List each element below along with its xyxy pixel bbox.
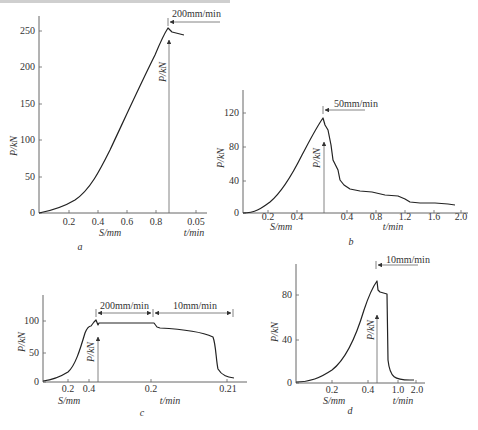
y-ticks: 0 40 80 bbox=[282, 289, 299, 388]
y-axis-label: P/kN bbox=[16, 331, 27, 353]
panel-c: 0 50 100 P/kN 0.2 0.4 0.2 0.21 S/mm t/mi… bbox=[16, 295, 247, 418]
svg-text:0.2: 0.2 bbox=[145, 383, 158, 394]
svg-text:0.4: 0.4 bbox=[291, 211, 304, 222]
cropped-text-strip bbox=[0, 0, 230, 3]
x-axis-label-s: S/mm bbox=[270, 221, 292, 232]
load-curve bbox=[296, 281, 414, 382]
svg-text:0.2: 0.2 bbox=[63, 216, 76, 227]
panel-label: b bbox=[349, 236, 354, 247]
y-axis-label: P/kN bbox=[8, 135, 19, 157]
x-axis-label-t: t/min bbox=[383, 221, 404, 232]
svg-text:50: 50 bbox=[29, 347, 39, 358]
svg-text:0.4: 0.4 bbox=[83, 383, 96, 394]
x-axis-label-s: S/mm bbox=[58, 395, 80, 406]
panel-a: 0 50 100 150 200 250 P/kN 0.2 0.4 0.6 0.… bbox=[8, 8, 221, 252]
figure: 0 50 100 150 200 250 P/kN 0.2 0.4 0.6 0.… bbox=[0, 0, 478, 430]
x-axis-label-s: S/mm bbox=[323, 395, 345, 406]
svg-text:40: 40 bbox=[282, 334, 292, 345]
svg-text:0.2: 0.2 bbox=[326, 384, 339, 395]
svg-text:0.4: 0.4 bbox=[341, 211, 354, 222]
svg-text:0.4: 0.4 bbox=[92, 216, 105, 227]
inner-y-label: P/kN bbox=[157, 61, 168, 83]
svg-text:0.2: 0.2 bbox=[62, 383, 75, 394]
svg-text:0.21: 0.21 bbox=[219, 383, 237, 394]
inner-y-label: P/kN bbox=[365, 319, 376, 341]
svg-text:0.05: 0.05 bbox=[187, 216, 205, 227]
panel-label: a bbox=[78, 241, 83, 252]
y-tick-label: 100 bbox=[20, 134, 35, 145]
x-ticks: 0.2 0.4 0.2 0.21 bbox=[62, 379, 237, 394]
y-tick-label: 200 bbox=[20, 61, 35, 72]
svg-text:1.6: 1.6 bbox=[428, 211, 441, 222]
svg-text:2.0: 2.0 bbox=[411, 384, 424, 395]
x-ticks: 0.2 0.4 1.0 2.0 bbox=[326, 380, 424, 395]
rate-annotation-1: 200mm/min bbox=[100, 300, 149, 311]
svg-text:40: 40 bbox=[229, 175, 239, 186]
y-tick-label: 50 bbox=[25, 171, 35, 182]
svg-text:0: 0 bbox=[287, 377, 292, 388]
rate-annotation: 200mm/min bbox=[172, 8, 221, 19]
svg-text:0: 0 bbox=[34, 376, 39, 387]
x-axis-label-t: t/min bbox=[160, 395, 181, 406]
svg-text:100: 100 bbox=[24, 315, 39, 326]
x-ticks: 0.2 0.4 0.4 0.8 1.2 1.6 2.0 bbox=[262, 210, 468, 222]
y-axis-label: P/kN bbox=[215, 147, 226, 169]
panel-b: 0 40 80 120 P/kN 0.2 0.4 0.4 0.8 1.2 1.6… bbox=[215, 90, 468, 247]
y-tick-label: 0 bbox=[30, 207, 35, 218]
svg-text:0.4: 0.4 bbox=[362, 384, 375, 395]
svg-text:1.0: 1.0 bbox=[392, 384, 405, 395]
svg-text:0: 0 bbox=[234, 207, 239, 218]
svg-text:0.8: 0.8 bbox=[150, 216, 163, 227]
load-curve bbox=[243, 118, 455, 213]
x-axis-label-t: t/min bbox=[393, 395, 414, 406]
y-tick-label: 250 bbox=[20, 25, 35, 36]
panel-label: c bbox=[140, 407, 145, 418]
rate-annotation: 10mm/min bbox=[386, 254, 430, 265]
svg-text:2.0: 2.0 bbox=[455, 211, 468, 222]
svg-text:120: 120 bbox=[224, 107, 239, 118]
rate-annotation: 50mm/min bbox=[334, 98, 378, 109]
rate-annotation-2: 10mm/min bbox=[173, 300, 217, 311]
svg-text:0.6: 0.6 bbox=[121, 216, 134, 227]
svg-text:80: 80 bbox=[282, 289, 292, 300]
svg-text:0.8: 0.8 bbox=[370, 211, 383, 222]
y-axis-label: P/kN bbox=[269, 321, 280, 343]
svg-text:80: 80 bbox=[229, 141, 239, 152]
inner-y-label: P/kN bbox=[85, 341, 96, 363]
panel-d: 0 40 80 P/kN 0.2 0.4 1.0 2.0 S/mm t/min … bbox=[269, 254, 430, 416]
load-curve bbox=[39, 28, 184, 213]
x-axis-label-s: S/mm bbox=[99, 227, 121, 238]
inner-y-label: P/kN bbox=[311, 147, 322, 169]
y-tick-label: 150 bbox=[20, 98, 35, 109]
panel-label: d bbox=[348, 405, 354, 416]
x-axis-label-t: t/min bbox=[184, 227, 205, 238]
load-curve bbox=[43, 320, 234, 381]
